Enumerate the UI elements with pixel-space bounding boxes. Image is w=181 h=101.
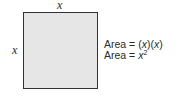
top-side-label: x	[57, 0, 62, 11]
paren-mid: )(	[147, 38, 154, 50]
area-formulas: Area = (x)(x) Area = x2	[104, 39, 163, 60]
paren-close: )	[159, 38, 163, 50]
square-shape	[23, 12, 98, 89]
left-side-label: x	[12, 44, 17, 56]
exponent: 2	[143, 49, 147, 56]
area-formula-square: Area = x2	[104, 50, 163, 61]
formula-prefix: Area =	[104, 49, 138, 61]
